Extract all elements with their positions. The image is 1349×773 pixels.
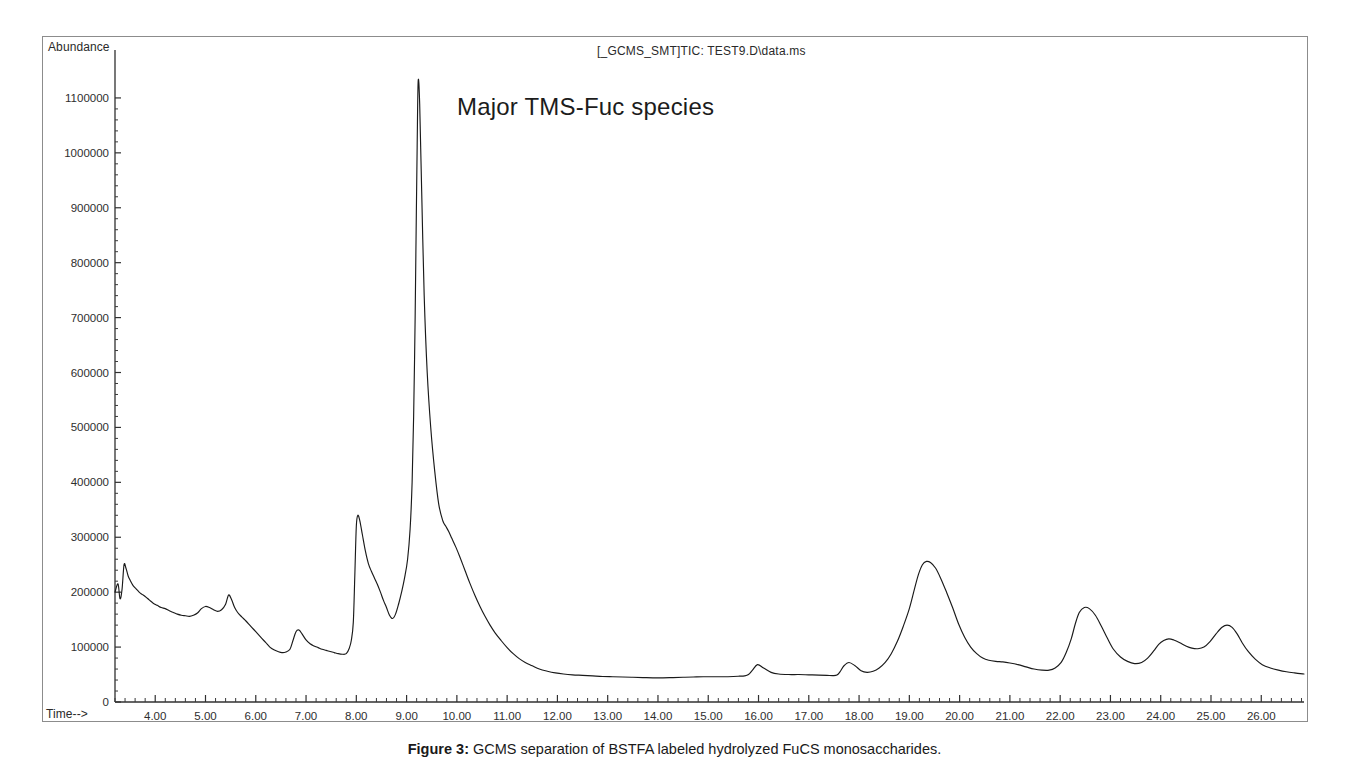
- x-axis: 4.005.006.007.008.009.0010.0011.0012.001…: [115, 695, 1304, 722]
- svg-text:400000: 400000: [71, 476, 109, 488]
- svg-text:26.00: 26.00: [1247, 710, 1276, 722]
- svg-text:800000: 800000: [71, 257, 109, 269]
- svg-text:15.00: 15.00: [694, 710, 723, 722]
- svg-text:20.00: 20.00: [945, 710, 974, 722]
- svg-text:100000: 100000: [71, 641, 109, 653]
- svg-text:8.00: 8.00: [345, 710, 367, 722]
- svg-text:5.00: 5.00: [194, 710, 216, 722]
- svg-text:14.00: 14.00: [644, 710, 673, 722]
- svg-text:19.00: 19.00: [895, 710, 924, 722]
- svg-text:7.00: 7.00: [295, 710, 317, 722]
- svg-text:4.00: 4.00: [144, 710, 166, 722]
- svg-text:900000: 900000: [71, 202, 109, 214]
- svg-text:1000000: 1000000: [64, 147, 109, 159]
- svg-text:12.00: 12.00: [543, 710, 572, 722]
- svg-text:22.00: 22.00: [1046, 710, 1075, 722]
- figure-caption-text: GCMS separation of BSTFA labeled hydroly…: [469, 741, 941, 757]
- svg-text:500000: 500000: [71, 421, 109, 433]
- svg-text:600000: 600000: [71, 367, 109, 379]
- svg-text:10.00: 10.00: [442, 710, 471, 722]
- svg-text:23.00: 23.00: [1096, 710, 1125, 722]
- svg-text:11.00: 11.00: [493, 710, 521, 722]
- svg-text:13.00: 13.00: [593, 710, 622, 722]
- svg-text:25.00: 25.00: [1197, 710, 1226, 722]
- figure-caption-label: Figure 3:: [408, 741, 469, 757]
- svg-text:18.00: 18.00: [845, 710, 874, 722]
- svg-text:24.00: 24.00: [1146, 710, 1175, 722]
- figure-container: Abundance Time--> [_GCMS_SMT]TIC: TEST9.…: [0, 0, 1349, 773]
- svg-text:0: 0: [103, 696, 109, 708]
- svg-text:300000: 300000: [71, 531, 109, 543]
- svg-text:17.00: 17.00: [794, 710, 823, 722]
- chromatogram-plot: 0100000200000300000400000500000600000700…: [42, 36, 1308, 722]
- tic-trace-line: [115, 79, 1304, 678]
- svg-text:1100000: 1100000: [65, 92, 109, 104]
- svg-text:9.00: 9.00: [395, 710, 417, 722]
- y-axis: 0100000200000300000400000500000600000700…: [64, 50, 121, 708]
- svg-text:21.00: 21.00: [996, 710, 1025, 722]
- figure-caption: Figure 3: GCMS separation of BSTFA label…: [0, 741, 1349, 757]
- svg-text:16.00: 16.00: [744, 710, 773, 722]
- svg-text:6.00: 6.00: [245, 710, 267, 722]
- svg-text:200000: 200000: [71, 586, 109, 598]
- svg-text:700000: 700000: [71, 312, 109, 324]
